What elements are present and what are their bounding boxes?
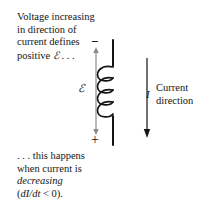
negative-terminal-sign: − <box>91 34 98 50</box>
inductor-emf-figure: Voltage increasing in direction of curre… <box>0 0 205 201</box>
positive-terminal-sign: + <box>91 132 99 148</box>
current-symbol-label: I <box>146 88 150 100</box>
inductor-wire-group <box>98 40 113 145</box>
emf-double-arrow <box>93 47 99 135</box>
current-direction-caption: Current direction <box>156 82 193 107</box>
emf-label: ℰ <box>78 82 85 95</box>
current-caption-line-2: direction <box>156 95 193 108</box>
current-caption-line-1: Current <box>156 82 193 95</box>
current-arrow-head <box>144 129 150 138</box>
